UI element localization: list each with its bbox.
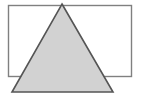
figure-canvas: [0, 0, 141, 98]
shapes-svg: [0, 0, 141, 98]
